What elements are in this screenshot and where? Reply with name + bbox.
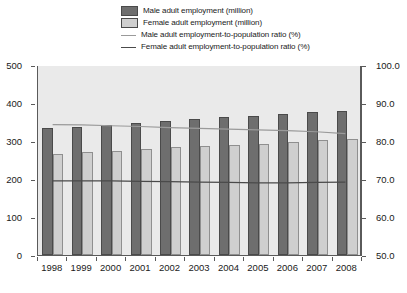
y-axis-left-label: 100	[6, 213, 22, 223]
x-axis-label: 2005	[247, 262, 268, 273]
y-axis-left-tick	[31, 142, 35, 143]
legend-item-male-employment: Male adult employment (million)	[121, 5, 310, 16]
y-axis-right-label: 70.0	[376, 175, 395, 185]
legend-item-label: Male adult employment-to-population rati…	[141, 30, 301, 39]
legend-item-label: Male adult employment (million)	[143, 6, 253, 15]
x-axis-label: 2004	[218, 262, 239, 273]
x-axis-tick	[243, 257, 244, 261]
x-axis-tick	[361, 257, 362, 261]
x-axis-label: 2006	[277, 262, 298, 273]
y-axis-left-label: 500	[6, 61, 22, 71]
x-axis-label: 2000	[100, 262, 121, 273]
x-axis-label: 2007	[306, 262, 327, 273]
y-axis-right-tick	[362, 66, 366, 67]
y-axis-left-tick	[31, 218, 35, 219]
x-axis-tick	[37, 257, 38, 261]
y-axis-left-label: 300	[6, 137, 22, 147]
x-axis-tick	[273, 257, 274, 261]
x-axis: 1998199920002001200220032004200520062007…	[37, 258, 361, 278]
legend-item-female-ratio: Female adult employment-to-population ra…	[121, 41, 310, 52]
x-axis-tick	[184, 257, 185, 261]
y-axis-right-label: 100.0	[376, 61, 400, 71]
legend-item-label: Female adult employment (million)	[143, 18, 262, 27]
x-axis-label: 2008	[336, 262, 357, 273]
legend-swatch-dark-icon	[121, 6, 138, 16]
female-ratio-line	[53, 181, 346, 183]
line-layer	[38, 66, 360, 255]
x-axis-tick	[302, 257, 303, 261]
x-axis-tick	[332, 257, 333, 261]
y-axis-right-tick	[362, 104, 366, 105]
legend-swatch-light-icon	[121, 18, 138, 28]
y-axis-left-tick	[31, 180, 35, 181]
x-axis-label: 1998	[41, 262, 62, 273]
legend-item-label: Female adult employment-to-population ra…	[141, 42, 310, 51]
legend-item-female-employment: Female adult employment (million)	[121, 17, 310, 28]
y-axis-right-label: 90.0	[376, 99, 395, 109]
y-axis-left-tick	[31, 104, 35, 105]
plot-area	[37, 66, 361, 256]
chart-area: 5004003002001000 100.090.080.070.060.050…	[0, 58, 407, 293]
y-axis-right-label: 60.0	[376, 213, 395, 223]
y-axis-left-tick	[31, 256, 35, 257]
y-axis-right-tick	[362, 142, 366, 143]
y-axis-left-label: 200	[6, 175, 22, 185]
y-axis-left-tick	[31, 66, 35, 67]
x-axis-tick	[96, 257, 97, 261]
x-axis-tick	[155, 257, 156, 261]
legend-line-dark-icon	[121, 43, 136, 51]
x-axis-label: 2003	[188, 262, 209, 273]
y-axis-right: 100.090.080.070.060.050.0	[368, 66, 407, 256]
x-axis-tick	[214, 257, 215, 261]
y-axis-right-label: 50.0	[376, 251, 395, 261]
x-axis-tick	[125, 257, 126, 261]
x-axis-label: 2001	[130, 262, 151, 273]
x-axis-tick	[66, 257, 67, 261]
y-axis-left-label: 0	[17, 251, 22, 261]
legend-line-light-icon	[121, 31, 136, 39]
y-axis-right-spine	[361, 66, 362, 256]
y-axis-right-label: 80.0	[376, 137, 395, 147]
male-ratio-line	[53, 125, 346, 134]
legend-item-male-ratio: Male adult employment-to-population rati…	[121, 29, 310, 40]
y-axis-left: 5004003002001000	[0, 66, 30, 256]
chart-legend: Male adult employment (million) Female a…	[121, 5, 310, 52]
y-axis-left-label: 400	[6, 99, 22, 109]
x-axis-label: 1999	[71, 262, 92, 273]
y-axis-right-tick	[362, 218, 366, 219]
x-axis-label: 2002	[159, 262, 180, 273]
y-axis-right-tick	[362, 180, 366, 181]
y-axis-right-tick	[362, 256, 366, 257]
